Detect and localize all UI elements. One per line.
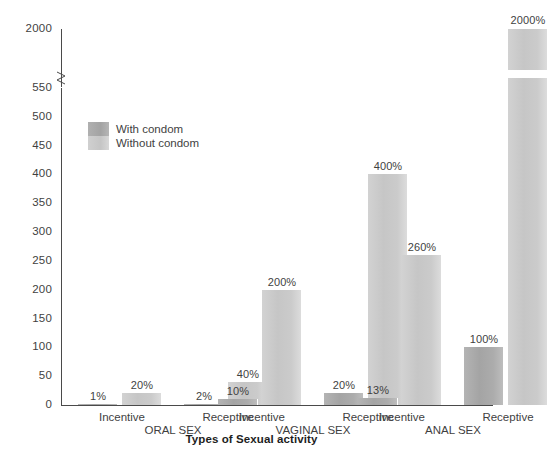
y-tick-2000: 2000 xyxy=(8,23,52,34)
bar-value-label: 200% xyxy=(256,277,308,288)
legend-swatch-without-condom xyxy=(88,136,109,150)
x-tick-label-receptive: Receptive xyxy=(450,411,551,424)
bar-with-condom xyxy=(78,404,118,405)
legend-item-with-condom: With condom xyxy=(88,122,199,136)
x-tick-label-incentive: Incentive xyxy=(344,411,460,424)
y-tick-550: 550 xyxy=(8,82,52,93)
bar-value-label: 10% xyxy=(212,386,264,397)
bar-without-condom xyxy=(402,255,442,405)
bar-value-label: 20% xyxy=(116,380,168,391)
y-tick-300: 300 xyxy=(8,226,52,237)
y-tick-50: 50 xyxy=(8,370,52,381)
bar-value-label: 100% xyxy=(458,334,510,345)
y-tick-400: 400 xyxy=(8,168,52,179)
legend-label-with-condom: With condom xyxy=(116,123,183,136)
bar-without-condom-upper-segment xyxy=(508,29,548,70)
y-tick-200: 200 xyxy=(8,284,52,295)
x-axis-title: Types of Sexual activity xyxy=(0,433,503,445)
bar-value-label: 1% xyxy=(72,391,124,402)
bar-value-label: 13% xyxy=(352,385,404,396)
legend-label-without-condom: Without condom xyxy=(116,137,199,150)
y-tick-450: 450 xyxy=(8,140,52,151)
legend-item-without-condom: Without condom xyxy=(88,136,199,150)
y-tick-100: 100 xyxy=(8,341,52,352)
bar-without-condom xyxy=(262,290,302,405)
bar-without-condom xyxy=(122,393,162,405)
y-tick-0: 0 xyxy=(8,399,52,410)
x-axis-line xyxy=(61,405,493,406)
bar-value-label: 400% xyxy=(362,161,414,172)
bar-with-condom xyxy=(464,347,504,405)
bar-with-condom xyxy=(358,398,398,405)
bar-value-label: 2000% xyxy=(498,15,551,26)
y-tick-150: 150 xyxy=(8,313,52,324)
plot-area xyxy=(62,10,493,405)
y-tick-250: 250 xyxy=(8,255,52,266)
y-tick-350: 350 xyxy=(8,197,52,208)
bar-without-condom-lower-segment xyxy=(508,78,548,405)
bar-value-label: 260% xyxy=(396,242,448,253)
x-tick-label-incentive: Incentive xyxy=(64,411,180,424)
legend-swatch-with-condom xyxy=(88,122,109,136)
legend: With condom Without condom xyxy=(88,122,199,150)
x-tick-label-incentive: Incentive xyxy=(204,411,320,424)
bar-value-label: 40% xyxy=(222,369,274,380)
y-tick-500: 500 xyxy=(8,111,52,122)
